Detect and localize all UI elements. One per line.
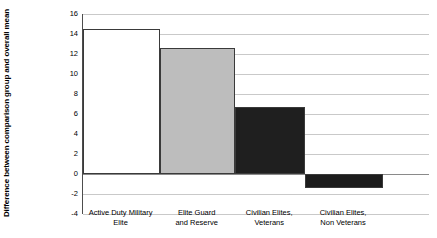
x-label-line: Civilian Elites,: [294, 208, 392, 218]
bar-1: [160, 48, 235, 174]
x-axis-label-3: Civilian Elites,Non Veterans: [294, 208, 392, 227]
y-tick-label-14: 14: [52, 30, 78, 38]
x-axis-category-labels: Active Duty MilitaryEliteElite Guardand …: [82, 208, 428, 238]
bar-3: [305, 174, 383, 188]
y-tick-label-4: 4: [52, 130, 78, 138]
y-axis-title: Difference between comparison group and …: [0, 0, 14, 232]
x-label-line: Non Veterans: [294, 218, 392, 228]
y-tick-label-12: 12: [52, 50, 78, 58]
y-tick-label-10: 10: [52, 70, 78, 78]
y-tick-label-16: 16: [52, 10, 78, 18]
plot-area: [82, 14, 429, 214]
bar-2: [235, 107, 305, 174]
bar-0: [83, 29, 160, 174]
y-tick-label-0: 0: [52, 170, 78, 178]
y-tick-label-2: 2: [52, 150, 78, 158]
y-tick-label-6: 6: [52, 110, 78, 118]
y-axis-tick-labels: 1614121086420-2-4: [48, 0, 78, 238]
y-tick-label--2: -2: [52, 190, 78, 198]
bar-chart: Difference between comparison group and …: [0, 0, 437, 238]
bars-layer: [83, 14, 429, 214]
y-tick-label-8: 8: [52, 90, 78, 98]
